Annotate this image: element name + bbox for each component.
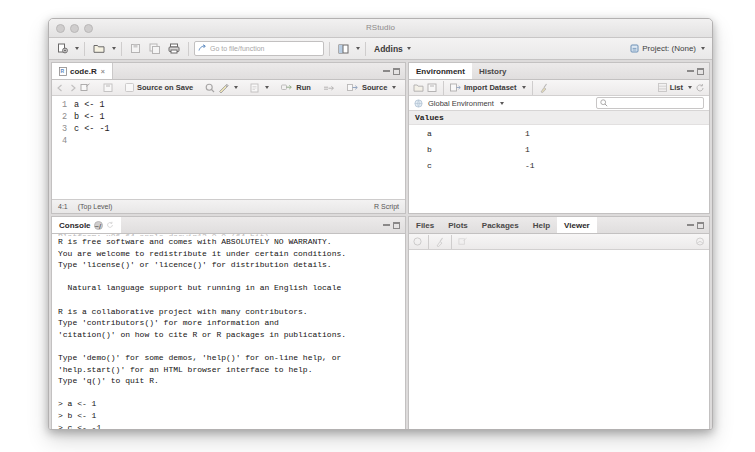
import-dataset-caret-icon[interactable] bbox=[522, 86, 526, 89]
print-icon bbox=[168, 43, 180, 54]
console-line: Type 'demo()' for some demos, 'help()' f… bbox=[58, 352, 405, 364]
minimize-pane-icon[interactable] bbox=[687, 224, 694, 226]
workspace-panes-caret-icon[interactable] bbox=[356, 47, 360, 50]
import-dataset-icon[interactable] bbox=[450, 83, 461, 92]
tab-history[interactable]: History bbox=[472, 63, 514, 79]
line-text: c <- -1 bbox=[74, 123, 110, 135]
code-tools-caret-icon[interactable] bbox=[234, 86, 238, 89]
run-label[interactable]: Run bbox=[296, 83, 311, 92]
broom-clear-icon[interactable] bbox=[435, 237, 445, 247]
environment-row[interactable]: b 1 bbox=[409, 141, 709, 157]
publish-icon[interactable] bbox=[695, 237, 705, 246]
tab-console[interactable]: Console ~/ bbox=[52, 217, 121, 233]
goto-arrow-icon bbox=[198, 44, 207, 53]
source-head-spacer bbox=[113, 63, 378, 79]
find-icon[interactable] bbox=[205, 83, 215, 93]
tab-plots[interactable]: Plots bbox=[441, 217, 475, 233]
viewer-tool-divider bbox=[428, 235, 429, 249]
source-on-save-label[interactable]: Source on Save bbox=[137, 83, 193, 92]
list-view-caret-icon[interactable] bbox=[688, 86, 692, 89]
scope-selector[interactable]: (Top Level) bbox=[78, 203, 113, 210]
console-line: R is a collaborative project with many c… bbox=[58, 306, 405, 318]
goto-file-function-input[interactable]: Go to file/function bbox=[194, 41, 324, 56]
open-file-caret-icon[interactable] bbox=[112, 47, 116, 50]
environment-search-input[interactable] bbox=[596, 97, 704, 109]
tab-history-label: History bbox=[479, 67, 507, 76]
project-caret-icon bbox=[701, 47, 705, 50]
tab-viewer[interactable]: Viewer bbox=[557, 217, 597, 233]
popout-icon[interactable] bbox=[458, 237, 468, 246]
console-line: Type 'q()' to quit R. bbox=[58, 375, 405, 387]
new-file-icon bbox=[57, 43, 68, 54]
minimize-pane-icon[interactable] bbox=[383, 224, 390, 226]
project-menu[interactable]: Project: (None) bbox=[630, 44, 707, 53]
environment-row[interactable]: a 1 bbox=[409, 125, 709, 141]
filetype-selector[interactable]: R Script bbox=[374, 203, 399, 210]
run-icon[interactable] bbox=[281, 83, 293, 92]
minimize-pane-icon[interactable] bbox=[687, 70, 694, 72]
tab-packages[interactable]: Packages bbox=[475, 217, 526, 233]
source-editor[interactable]: 1 a <- 1 2 b <- 1 3 c <- -1 4 bbox=[52, 96, 405, 199]
save-icon[interactable] bbox=[103, 83, 113, 92]
workspace-panes-icon bbox=[338, 44, 349, 54]
print-button[interactable] bbox=[165, 41, 183, 57]
compile-report-icon[interactable] bbox=[250, 83, 260, 93]
main-toolbar: Go to file/function Addins Pr bbox=[49, 38, 712, 60]
environment-list: Values a 1 b 1 c -1 bbox=[409, 111, 709, 213]
code-line: 1 a <- 1 bbox=[52, 99, 405, 111]
source-pane-header: R code.R × bbox=[52, 63, 405, 80]
refresh-icon[interactable] bbox=[106, 221, 114, 229]
code-line: 3 c <- -1 bbox=[52, 123, 405, 135]
stop-icon[interactable] bbox=[413, 237, 422, 246]
maximize-pane-icon[interactable] bbox=[697, 68, 704, 75]
code-tools-icon[interactable] bbox=[218, 83, 229, 93]
new-file-button[interactable] bbox=[54, 41, 71, 57]
environment-pane-controls bbox=[682, 63, 709, 79]
addins-caret-icon[interactable] bbox=[407, 47, 411, 50]
compile-report-caret-icon[interactable] bbox=[265, 86, 269, 89]
line-number: 1 bbox=[52, 99, 74, 111]
tab-environment[interactable]: Environment bbox=[409, 63, 472, 79]
variable-name: c bbox=[427, 160, 525, 171]
source-button-icon[interactable] bbox=[347, 83, 359, 92]
global-environment-label[interactable]: Global Environment bbox=[428, 99, 494, 108]
grid-icon[interactable] bbox=[658, 83, 667, 92]
tab-code-r[interactable]: R code.R × bbox=[52, 63, 113, 79]
maximize-pane-icon[interactable] bbox=[393, 68, 400, 75]
import-dataset-label[interactable]: Import Dataset bbox=[464, 83, 517, 92]
refresh-icon[interactable] bbox=[695, 83, 705, 93]
console-line: 'citation()' on how to cite R or R packa… bbox=[58, 329, 405, 341]
back-icon[interactable] bbox=[56, 84, 65, 92]
forward-icon[interactable] bbox=[68, 84, 77, 92]
list-view-label[interactable]: List bbox=[670, 83, 683, 92]
tab-files[interactable]: Files bbox=[409, 217, 441, 233]
minimize-pane-icon[interactable] bbox=[383, 70, 390, 72]
tab-close-icon[interactable]: × bbox=[101, 68, 105, 75]
save-workspace-icon[interactable] bbox=[427, 83, 437, 92]
tab-help[interactable]: Help bbox=[526, 217, 557, 233]
broom-clear-icon[interactable] bbox=[539, 83, 549, 93]
show-in-new-window-icon[interactable] bbox=[80, 83, 91, 92]
source-caret-icon[interactable] bbox=[392, 86, 396, 89]
maximize-pane-icon[interactable] bbox=[393, 222, 400, 229]
variable-name: a bbox=[427, 128, 525, 139]
save-file-button[interactable] bbox=[127, 41, 144, 57]
global-environment-caret-icon[interactable] bbox=[500, 102, 504, 105]
maximize-pane-icon[interactable] bbox=[697, 222, 704, 229]
line-text: a <- 1 bbox=[74, 99, 105, 111]
rerun-icon[interactable] bbox=[323, 83, 335, 92]
console-output[interactable]: Platform: x86_64-apple-darwin13.0.0 (64-… bbox=[52, 234, 405, 430]
addins-menu[interactable]: Addins bbox=[374, 44, 403, 54]
save-all-button[interactable] bbox=[146, 41, 163, 57]
source-label[interactable]: Source bbox=[362, 83, 387, 92]
files-pane-header: Files Plots Packages Help Viewer bbox=[409, 217, 709, 234]
new-file-caret-icon[interactable] bbox=[75, 47, 79, 50]
env-head-spacer bbox=[513, 63, 682, 79]
workspace-panes-button[interactable] bbox=[335, 41, 352, 57]
open-file-button[interactable] bbox=[90, 41, 108, 57]
source-statusbar: 4:1 (Top Level) R Script bbox=[52, 199, 405, 213]
source-on-save-checkbox[interactable] bbox=[125, 83, 134, 92]
environment-row[interactable]: c -1 bbox=[409, 157, 709, 173]
load-workspace-icon[interactable] bbox=[413, 83, 424, 92]
viewer-content[interactable] bbox=[409, 250, 709, 430]
